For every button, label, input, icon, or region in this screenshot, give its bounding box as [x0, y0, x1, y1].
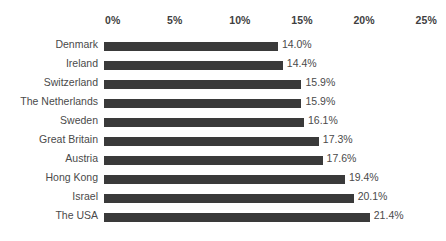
bar-row: Israel20.1% — [0, 188, 446, 207]
x-tick-label-25: 25% — [416, 13, 437, 27]
category-label-israel: Israel — [0, 188, 98, 205]
category-label-the-netherlands: The Netherlands — [0, 93, 98, 110]
category-label-the-usa: The USA — [0, 207, 98, 224]
category-label-austria: Austria — [0, 150, 98, 167]
category-label-great-britain: Great Britain — [0, 131, 98, 148]
value-label: 14.0% — [282, 36, 312, 53]
bar — [104, 42, 278, 51]
bar — [104, 156, 323, 165]
bar-row: The USA21.4% — [0, 207, 446, 226]
bar-row: Sweden16.1% — [0, 112, 446, 131]
bar — [104, 99, 301, 108]
value-label: 21.4% — [374, 207, 404, 224]
bar-row: Switzerland15.9% — [0, 74, 446, 93]
x-tick-label-0: 0% — [105, 13, 120, 27]
bar — [104, 80, 301, 89]
plot-area: Denmark14.0%Ireland14.4%Switzerland15.9%… — [0, 36, 446, 236]
bar — [104, 175, 345, 184]
x-axis-tick-labels: 0%5%10%15%20%25% — [0, 13, 446, 31]
value-label: 17.6% — [327, 150, 357, 167]
bar — [104, 61, 283, 70]
value-label: 15.9% — [305, 93, 335, 110]
category-label-sweden: Sweden — [0, 112, 98, 129]
bar-row: Hong Kong19.4% — [0, 169, 446, 188]
value-label: 17.3% — [323, 131, 353, 148]
bar — [104, 194, 354, 203]
category-label-hong-kong: Hong Kong — [0, 169, 98, 186]
x-tick-label-10: 10% — [229, 13, 250, 27]
bar-chart: 0%5%10%15%20%25% Denmark14.0%Ireland14.4… — [0, 0, 446, 241]
bar-row: Ireland14.4% — [0, 55, 446, 74]
value-label: 14.4% — [287, 55, 317, 72]
bar-row: Great Britain17.3% — [0, 131, 446, 150]
category-label-switzerland: Switzerland — [0, 74, 98, 91]
value-label: 15.9% — [305, 74, 335, 91]
x-tick-label-15: 15% — [291, 13, 312, 27]
bar-row: Austria17.6% — [0, 150, 446, 169]
value-label: 20.1% — [358, 188, 388, 205]
x-tick-label-20: 20% — [353, 13, 374, 27]
bar — [104, 137, 319, 146]
bar — [104, 213, 370, 222]
bar — [104, 118, 304, 127]
value-label: 16.1% — [308, 112, 338, 129]
category-label-denmark: Denmark — [0, 36, 98, 53]
bar-row: Denmark14.0% — [0, 36, 446, 55]
x-tick-label-5: 5% — [167, 13, 182, 27]
category-label-ireland: Ireland — [0, 55, 98, 72]
value-label: 19.4% — [349, 169, 379, 186]
bar-row: The Netherlands15.9% — [0, 93, 446, 112]
